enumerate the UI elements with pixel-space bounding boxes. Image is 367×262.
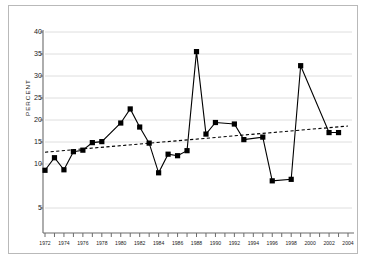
data-point [165,152,170,157]
data-point [118,120,123,125]
gridlines [45,32,352,208]
data-point [52,155,57,160]
data-point [156,170,161,175]
data-point [184,148,189,153]
axis-lines [43,30,354,233]
data-point [175,153,180,158]
data-point [289,177,294,182]
x-axis-ticks [45,233,348,237]
trend-line [45,126,348,152]
data-point [213,120,218,125]
data-point [203,131,208,136]
data-point [137,124,142,129]
data-point [336,130,341,135]
data-point [232,121,237,126]
data-point [326,130,331,135]
data-point [270,178,275,183]
data-point [241,137,246,142]
data-point [99,139,104,144]
x-tick-2004: 2004 [336,240,360,246]
data-line [45,52,339,181]
chart-container: PERCENT 40 35 30 25 20 15 10 5 [0,0,367,262]
data-point [194,49,199,54]
data-point [42,168,47,173]
data-point [80,148,85,153]
data-point [90,140,95,145]
data-point [298,63,303,68]
data-point [71,149,76,154]
chart-plot [0,0,367,262]
data-point [61,167,66,172]
data-point [260,134,265,139]
data-point [147,141,152,146]
data-point [128,106,133,111]
